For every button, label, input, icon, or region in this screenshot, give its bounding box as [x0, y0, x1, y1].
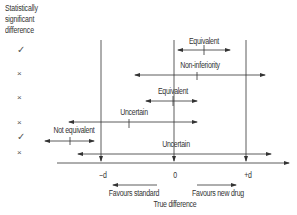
tick-zero: 0	[173, 170, 177, 180]
label-not-equivalent: Not equivalent	[53, 125, 94, 135]
favours-new-drug-label: Favours new drug	[192, 188, 244, 198]
axis-title: True difference	[154, 199, 197, 209]
label-uncertain-2: Uncertain	[162, 139, 190, 149]
label-equivalent-1: Equivalent	[189, 36, 219, 46]
label-equivalent-2: Equivalent	[158, 86, 188, 96]
label-uncertain-1: Uncertain	[120, 107, 148, 117]
equivalence-diagram	[0, 0, 297, 215]
favours-standard-label: Favours standard	[109, 188, 159, 198]
tick-plus-d: +d	[244, 170, 251, 180]
label-non-inferiority: Non-inferiority	[180, 60, 220, 70]
tick-minus-d: −d	[99, 170, 106, 180]
